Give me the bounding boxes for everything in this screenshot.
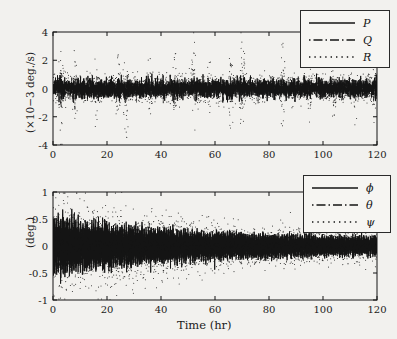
legend-swatch-dotted	[308, 52, 356, 62]
bottom-panel-legend: ϕ θ ψ	[303, 175, 391, 233]
legend-item-q: Q	[301, 32, 389, 48]
legend-item-r: R	[301, 49, 389, 65]
legend-swatch-solid	[311, 183, 359, 193]
figure-canvas: (×10−3 deg./s) -4 -2 0 2 4 0 20 40 60 80…	[0, 0, 397, 339]
legend-item-psi: ψ	[304, 214, 390, 230]
legend-label-phi: ϕ	[366, 182, 374, 195]
bottom-panel: (deg.) -1 -0.5 0 0.5 1 0 20 40 60 80 100…	[0, 170, 397, 339]
legend-swatch-dashdot	[308, 35, 356, 45]
legend-item-phi: ϕ	[304, 180, 390, 196]
legend-item-theta: θ	[304, 197, 390, 213]
legend-label-p: P	[363, 17, 370, 30]
legend-swatch-dotted	[311, 217, 359, 227]
top-panel-legend: P Q R	[300, 10, 390, 68]
legend-item-p: P	[301, 15, 389, 31]
legend-label-q: Q	[363, 34, 372, 47]
legend-swatch-solid	[308, 18, 356, 28]
legend-label-psi: ψ	[366, 216, 375, 229]
legend-label-r: R	[363, 51, 371, 64]
top-panel: (×10−3 deg./s) -4 -2 0 2 4 0 20 40 60 80…	[0, 0, 397, 170]
legend-label-theta: θ	[366, 199, 373, 212]
legend-swatch-dashdot	[311, 200, 359, 210]
